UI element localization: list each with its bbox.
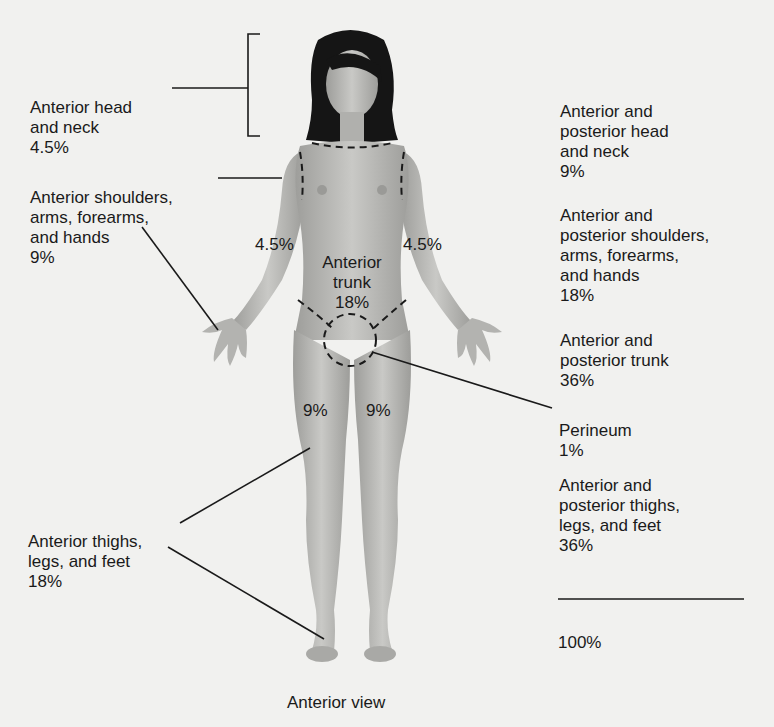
label-value: 18% xyxy=(28,572,142,592)
right-thigh-percent: 9% xyxy=(366,401,391,421)
label-value: 9% xyxy=(560,162,669,182)
label-ap-head-neck: Anterior and posterior head and neck 9% xyxy=(560,82,669,202)
total-percent: 100% xyxy=(558,633,601,653)
label-value: 36% xyxy=(559,536,680,556)
right-hand xyxy=(457,318,502,366)
label-anterior-arms: Anterior shoulders, arms, forearms, and … xyxy=(30,168,173,288)
left-hand xyxy=(202,318,247,366)
left-leg xyxy=(293,330,350,652)
label-ap-trunk: Anterior and posterior trunk 36% xyxy=(560,311,669,411)
trunk-label: Anterior trunk 18% xyxy=(312,233,392,333)
right-arm-percent: 4.5% xyxy=(403,235,442,255)
label-ap-legs: Anterior and posterior thighs, legs, and… xyxy=(559,456,680,576)
trunk-name: Anterior trunk xyxy=(322,253,382,292)
label-value: 36% xyxy=(560,371,669,391)
label-ap-arms: Anterior and posterior shoulders, arms, … xyxy=(560,186,709,326)
left-arm-percent: 4.5% xyxy=(255,235,294,255)
figure-caption: Anterior view xyxy=(287,693,385,713)
label-name: Anterior and posterior thighs, legs, and… xyxy=(559,476,680,535)
label-name: Anterior shoulders, arms, forearms, and … xyxy=(30,188,173,247)
label-name: Anterior and posterior shoulders, arms, … xyxy=(560,206,709,285)
rule-of-nines-diagram: Anterior head and neck 4.5% Anterior sho… xyxy=(0,0,774,727)
right-foot xyxy=(364,646,396,662)
label-value: 4.5% xyxy=(30,138,132,158)
label-name: Perineum xyxy=(559,421,632,440)
right-leg xyxy=(354,330,411,652)
label-value: 9% xyxy=(30,248,173,268)
label-name: Anterior and posterior trunk xyxy=(560,331,669,370)
label-name: Anterior thighs, legs, and feet xyxy=(28,532,142,571)
label-value: 18% xyxy=(560,286,709,306)
label-anterior-legs: Anterior thighs, legs, and feet 18% xyxy=(28,512,142,612)
label-name: Anterior and posterior head and neck xyxy=(560,102,669,161)
trunk-percent: 18% xyxy=(312,293,392,313)
left-foot xyxy=(306,646,338,662)
label-anterior-head-neck: Anterior head and neck 4.5% xyxy=(30,78,132,178)
label-name: Anterior head and neck xyxy=(30,98,132,137)
left-thigh-percent: 9% xyxy=(303,401,328,421)
